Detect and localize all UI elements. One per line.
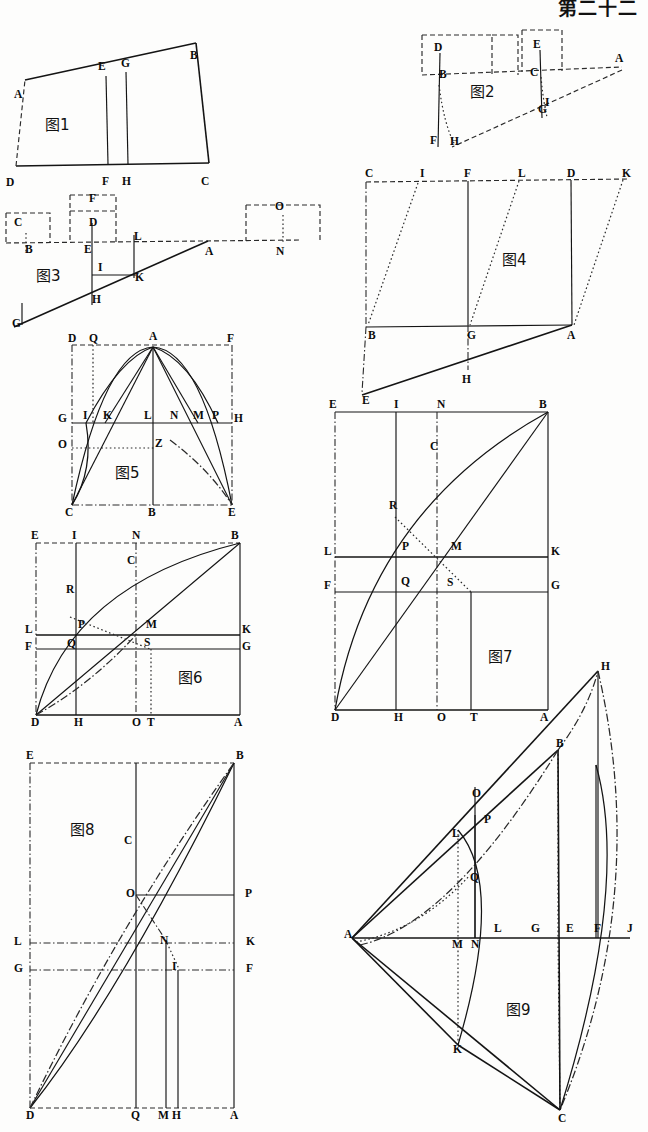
label-fig1-A: A — [14, 88, 23, 100]
label-fig9-K: K — [453, 1043, 462, 1055]
label-fig9-B: B — [556, 737, 564, 749]
label-fig6-C: C — [127, 554, 135, 566]
label-fig8-M: M — [158, 1109, 169, 1121]
figure-2: D E A B C G I F H 图2 — [410, 25, 640, 160]
label-fig9-O: O — [472, 787, 481, 799]
label-fig3-C: C — [14, 216, 22, 228]
label-fig5-H: H — [234, 412, 243, 424]
label-fig6-M: M — [146, 618, 157, 630]
label-fig6-B: B — [231, 529, 239, 541]
label-fig3-O: O — [275, 200, 284, 212]
label-fig5-M: M — [193, 409, 204, 421]
figure-8: E B C O P L N K G I F D Q M H A 图8 — [0, 745, 270, 1130]
label-fig6-K: K — [242, 623, 251, 635]
label-fig1-E: E — [98, 60, 106, 72]
label-fig9-F: F — [594, 922, 601, 934]
label-fig5-K: K — [103, 409, 112, 421]
label-fig8-C: C — [124, 834, 132, 846]
label-fig3-A: A — [205, 245, 214, 257]
label-fig3-B: B — [25, 243, 33, 255]
label-fig3-L: L — [134, 230, 142, 242]
label-fig7-S: S — [447, 576, 453, 588]
label-fig9-P: P — [484, 813, 491, 825]
label-fig3-K: K — [135, 271, 144, 283]
label-fig9-M: M — [452, 938, 463, 950]
label-fig5-E: E — [228, 506, 236, 518]
label-fig2-H: H — [450, 135, 459, 147]
label-fig7-Q: Q — [401, 575, 410, 587]
label-fig3-E: E — [84, 243, 92, 255]
label-fig2-F: F — [430, 134, 437, 146]
label-fig4-K: K — [622, 167, 631, 179]
label-fig2-C: C — [530, 66, 538, 78]
figure-5: D Q A F G I K L N M P H O Z C B E 图5 — [60, 330, 250, 520]
label-fig6-E: E — [31, 529, 39, 541]
label-fig4-G: G — [467, 329, 476, 341]
label-fig4-H: H — [462, 373, 471, 385]
label-fig7-L: L — [324, 545, 332, 557]
label-fig8-D: D — [26, 1109, 34, 1121]
label-fig8-A: A — [230, 1109, 239, 1121]
label-fig5-F: F — [227, 332, 234, 344]
label-fig9-A: A — [344, 928, 353, 940]
page-header-text: 第二十二 — [558, 0, 638, 20]
label-fig2-I: I — [545, 96, 550, 108]
label-fig1-B: B — [190, 49, 198, 61]
label-fig5-Q: Q — [89, 332, 98, 344]
label-fig5-O: O — [58, 438, 67, 450]
label-fig7-P: P — [402, 540, 409, 552]
scanned-page: 第二十二 A E G B D F H C 图1 — [0, 0, 648, 1132]
label-fig4-D: D — [567, 167, 575, 179]
label-fig7-G: G — [551, 579, 560, 591]
label-fig6-H: H — [74, 716, 83, 728]
label-fig7-F: F — [324, 579, 331, 591]
label-fig6-Q: Q — [67, 637, 76, 649]
label-fig8-H: H — [172, 1109, 181, 1121]
label-fig9-J: J — [627, 922, 633, 934]
label-fig7-N: N — [437, 398, 446, 410]
label-fig7-R: R — [389, 499, 398, 511]
label-fig3-H: H — [92, 293, 101, 305]
label-fig9-Q: Q — [470, 871, 479, 883]
label-fig9-C: C — [558, 1112, 566, 1124]
label-fig7-B: B — [539, 398, 547, 410]
label-fig3-D: D — [89, 216, 97, 228]
label-fig9-H: H — [601, 660, 610, 672]
label-fig5-G: G — [58, 412, 67, 424]
label-fig9-L-upper: L — [452, 827, 460, 839]
label-fig7-I: I — [394, 398, 399, 410]
label-fig8-I: I — [172, 960, 177, 972]
label-fig6-I: I — [72, 529, 77, 541]
label-fig7-C: C — [430, 440, 438, 452]
label-fig8-E: E — [26, 749, 34, 761]
label-fig6-L: L — [25, 623, 33, 635]
label-fig1-G: G — [121, 57, 130, 69]
figure-1: A E G B D F H C 图1 — [0, 25, 230, 175]
label-fig7-K: K — [551, 545, 560, 557]
label-fig5-L: L — [144, 409, 152, 421]
label-fig4-F: F — [464, 167, 471, 179]
label-fig5-A: A — [149, 330, 158, 342]
label-fig8-B: B — [236, 749, 244, 761]
label-fig8-N: N — [160, 934, 169, 946]
label-fig6-P: P — [78, 618, 85, 630]
label-fig2-A: A — [615, 52, 624, 64]
label-fig9-N: N — [471, 938, 480, 950]
figure-4: C I F L D K B G A H E 图4 — [340, 165, 640, 405]
label-fig4-C: C — [365, 167, 373, 179]
label-fig6-T: T — [147, 716, 155, 728]
figure-6: E I N B C R P M L K Q S F G D H O T A 图6 — [0, 525, 260, 730]
figure-4-caption: 图4 — [502, 251, 527, 269]
label-fig8-K: K — [246, 935, 255, 947]
label-fig5-Z: Z — [155, 437, 163, 449]
label-fig2-D: D — [434, 41, 442, 53]
label-fig9-L-base: L — [494, 922, 502, 934]
label-fig8-F: F — [246, 962, 253, 974]
label-fig9-G: G — [531, 922, 540, 934]
label-fig6-N: N — [132, 529, 141, 541]
label-fig2-B: B — [439, 68, 447, 80]
figure-9: H B O P L Q A M N L G E F J K C 图9 — [330, 655, 648, 1132]
label-fig5-N: N — [170, 409, 179, 421]
label-fig4-A: A — [567, 329, 576, 341]
figure-3: C F D O B E L A N I K H G 图3 — [0, 185, 330, 340]
